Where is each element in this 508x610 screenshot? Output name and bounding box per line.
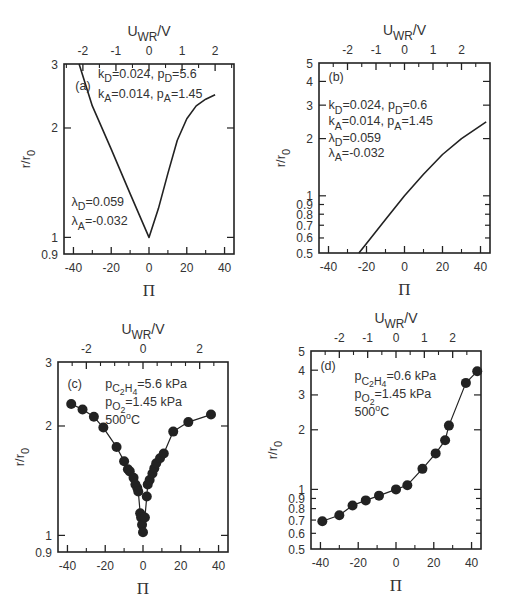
data-point <box>133 487 143 497</box>
chart-panel-b: -40-20020400.50.60.70.80.912345-2-1012UW… <box>273 22 490 299</box>
data-point <box>206 410 216 420</box>
chart-panel-a: -40-20020400.9123-2-1012UWR/VΠr/r0(a)kD=… <box>18 23 234 300</box>
y-tick-label: 1 <box>298 483 305 497</box>
x-tick-label: 40 <box>465 556 479 570</box>
y-tick-label: 2 <box>51 121 58 135</box>
top-tick-label: 0 <box>146 44 153 58</box>
annotation: λA=-0.032 <box>72 214 128 231</box>
data-point <box>444 421 454 431</box>
x-axis-label: Π <box>398 280 410 299</box>
top-axis-label: UWR/V <box>374 310 418 331</box>
y-tick-label: 0.9 <box>41 248 58 262</box>
y-tick-label: 0.5 <box>288 543 305 557</box>
y-tick-label: 3 <box>51 58 58 72</box>
y-tick-label: 1 <box>45 529 52 543</box>
top-tick-label: 2 <box>449 331 456 345</box>
data-point <box>78 405 88 415</box>
top-tick-label: 0 <box>140 342 147 356</box>
data-point <box>183 417 193 427</box>
x-tick-label: 40 <box>212 559 226 573</box>
top-tick-label: -1 <box>362 331 373 345</box>
data-point <box>112 442 122 452</box>
top-tick-label: -1 <box>111 44 122 58</box>
top-tick-label: -2 <box>334 331 345 345</box>
data-point <box>142 491 152 501</box>
annotation: (c) <box>67 377 82 391</box>
data-point <box>317 516 327 526</box>
annotation: kA=0.014, pA=1.45 <box>329 114 434 131</box>
y-tick-label: 2 <box>306 132 313 146</box>
y-tick-label: 3 <box>306 99 313 113</box>
x-tick-label: 0 <box>140 559 147 573</box>
x-tick-label: -20 <box>358 260 376 274</box>
y-axis-label: r/r0 <box>18 150 37 168</box>
y-axis-label: r/r0 <box>273 149 292 167</box>
x-tick-label: -40 <box>320 260 338 274</box>
x-tick-label: -40 <box>65 261 83 275</box>
x-tick-label: 0 <box>146 261 153 275</box>
data-point <box>461 378 471 388</box>
annotation: (d) <box>320 359 335 373</box>
y-axis-label-group: r/r0 <box>273 149 292 167</box>
y-tick-label: 5 <box>298 345 305 359</box>
data-point <box>440 435 450 445</box>
data-point <box>431 448 441 458</box>
top-tick-label: 0 <box>393 331 400 345</box>
x-tick-label: 0 <box>401 260 408 274</box>
data-point <box>89 412 99 422</box>
top-tick-label: 2 <box>458 43 465 57</box>
data-point <box>348 500 358 510</box>
y-tick-label: 5 <box>306 57 313 71</box>
data-point <box>374 491 384 501</box>
data-point <box>138 527 148 537</box>
top-tick-label: 0 <box>401 43 408 57</box>
top-tick-label: -2 <box>81 342 92 356</box>
x-tick-label: 20 <box>427 556 441 570</box>
data-point <box>472 366 482 376</box>
annotation: 500oC <box>105 411 140 427</box>
x-tick-label: 40 <box>218 261 232 275</box>
chart-panel-c: -40-20020400.9123-202UWR/VΠr/r0(c)pC2H4=… <box>12 321 228 598</box>
x-tick-label: 0 <box>393 556 400 570</box>
annotation: pC2H4=5.6 kPa <box>105 377 187 397</box>
top-tick-label: -2 <box>342 43 353 57</box>
y-axis-label-group: r/r0 <box>265 441 284 459</box>
x-tick-label: 20 <box>436 260 450 274</box>
y-tick-label: 0.6 <box>296 231 313 245</box>
data-point <box>159 449 169 459</box>
x-tick-label: -20 <box>350 556 368 570</box>
x-tick-label: 20 <box>180 261 194 275</box>
y-tick-label: 3 <box>298 388 305 402</box>
top-axis-label: UWR/V <box>121 321 165 342</box>
y-tick-label: 0.9 <box>35 546 52 560</box>
annotation: kA=0.014, pA=1.45 <box>98 87 203 104</box>
x-tick-label: -40 <box>59 559 77 573</box>
data-point <box>168 427 178 437</box>
annotation: λD=0.059 <box>72 195 125 212</box>
top-tick-label: 1 <box>421 331 428 345</box>
data-point <box>391 484 401 494</box>
y-axis-label: r/r0 <box>12 448 31 466</box>
data-point <box>361 495 371 505</box>
y-tick-label: 2 <box>45 419 52 433</box>
data-point <box>66 399 76 409</box>
figure-canvas: -40-20020400.9123-2-1012UWR/VΠr/r0(a)kD=… <box>0 0 508 610</box>
x-axis-label: Π <box>137 579 149 598</box>
y-axis-label-group: r/r0 <box>18 150 37 168</box>
x-tick-label: 40 <box>474 260 488 274</box>
annotation: (b) <box>329 70 344 84</box>
x-tick-label: -40 <box>312 556 330 570</box>
annotation: 500oC <box>354 403 389 419</box>
y-tick-label: 2 <box>298 423 305 437</box>
x-tick-label: -20 <box>97 559 115 573</box>
data-point <box>417 464 427 474</box>
y-tick-label: 4 <box>306 75 313 89</box>
y-tick-label: 3 <box>45 356 52 370</box>
x-tick-label: 20 <box>174 559 188 573</box>
x-axis-label: Π <box>143 281 155 300</box>
chart-panel-d: -40-20020400.50.60.70.80.912345-2-1012UW… <box>265 310 482 595</box>
y-axis-label: r/r0 <box>265 441 284 459</box>
annotation: pO2=1.45 kPa <box>354 387 431 407</box>
y-tick-label: 1 <box>51 231 58 245</box>
top-axis-label: UWR/V <box>383 22 427 43</box>
